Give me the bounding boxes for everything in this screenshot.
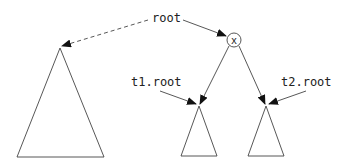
t1-triangle bbox=[181, 106, 217, 156]
t1-root-label: t1.root bbox=[131, 75, 182, 89]
root-to-x-arrow bbox=[183, 20, 226, 36]
t1-root-arrow bbox=[160, 91, 196, 104]
t2-root-label: t2.root bbox=[281, 75, 332, 89]
edge-x-t2 bbox=[239, 46, 265, 104]
root-to-tree-dashed-arrow bbox=[62, 20, 148, 46]
edge-x-t1 bbox=[200, 46, 229, 104]
tree-diagram: x root t1.root t2.root bbox=[0, 0, 341, 166]
t2-triangle bbox=[248, 106, 284, 156]
whole-tree-triangle bbox=[17, 48, 104, 157]
root-label: root bbox=[152, 11, 181, 25]
t2-root-arrow bbox=[269, 91, 306, 104]
node-x-label: x bbox=[231, 35, 237, 46]
